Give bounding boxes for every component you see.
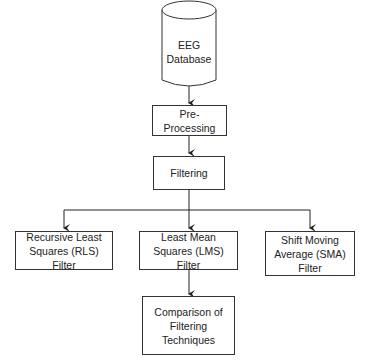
lms-label: Least Mean Squares (LMS) Filter: [142, 230, 235, 272]
rls-label: Recursive Least Squares (RLS) Filter: [18, 230, 110, 272]
database-label-line1: EEG: [149, 38, 229, 52]
filtering-node: Filtering: [153, 156, 225, 190]
filtering-label: Filtering: [170, 166, 207, 180]
database-label: EEG Database: [149, 38, 229, 66]
flowchart-canvas: EEG Database Pre-Processing Filtering Re…: [0, 0, 371, 360]
database-label-line2: Database: [149, 52, 229, 66]
comparison-label: Comparison of Filtering Techniques: [145, 305, 232, 347]
sma-label: Shift Moving Average (SMA) Filter: [268, 233, 352, 275]
preprocessing-node: Pre-Processing: [152, 105, 227, 136]
lms-node: Least Mean Squares (LMS) Filter: [139, 231, 238, 270]
rls-node: Recursive Least Squares (RLS) Filter: [15, 231, 113, 270]
comparison-node: Comparison of Filtering Techniques: [142, 296, 235, 355]
sma-node: Shift Moving Average (SMA) Filter: [265, 231, 355, 276]
preprocessing-label: Pre-Processing: [155, 107, 224, 135]
